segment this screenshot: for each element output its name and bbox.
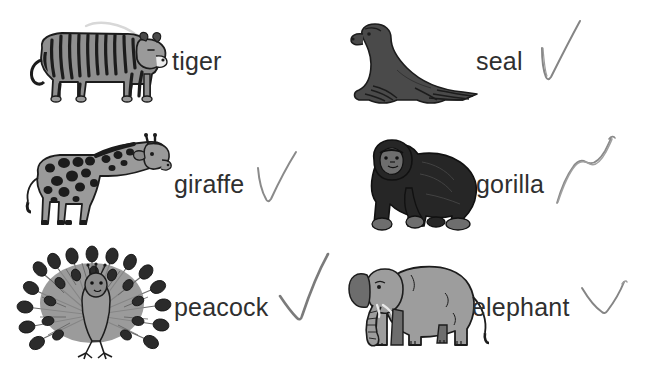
item-label-seal: seal [476, 0, 523, 123]
tiger-illustration [12, 0, 177, 123]
worksheet-item-peacock[interactable]: peacock [0, 246, 324, 369]
item-label-gorilla: gorilla [476, 123, 544, 246]
giraffe-illustration [12, 123, 177, 246]
worksheet-item-giraffe[interactable]: giraffe [0, 123, 324, 246]
checkmark-gorilla [547, 133, 607, 213]
worksheet-item-seal[interactable]: seal [325, 0, 649, 123]
worksheet-item-tiger[interactable]: tiger [0, 0, 324, 123]
item-label-tiger: tiger [172, 0, 222, 123]
peacock-illustration [12, 246, 177, 369]
checkmark-seal [530, 15, 590, 95]
checkmark-giraffe [250, 150, 310, 230]
item-label-elephant: elephant [472, 246, 570, 369]
item-label-peacock: peacock [174, 246, 269, 369]
worksheet-item-elephant[interactable]: elephant [325, 246, 649, 369]
worksheet-page: tiger [0, 0, 649, 370]
item-label-giraffe: giraffe [174, 123, 244, 246]
worksheet-item-gorilla[interactable]: gorilla [325, 123, 649, 246]
checkmark-elephant [578, 276, 638, 356]
